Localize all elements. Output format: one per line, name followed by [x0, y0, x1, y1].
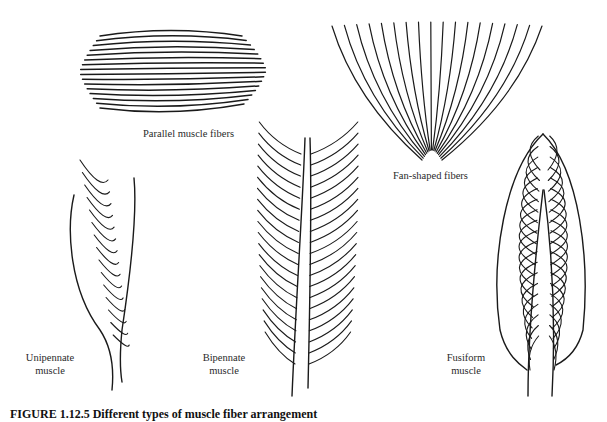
bipennate-fiber-right [311, 166, 359, 198]
bipennate-fiber-right [310, 199, 357, 231]
unipennate-fiber [92, 223, 116, 241]
bipennate-fiber-right [311, 177, 359, 209]
fan-fiber [442, 26, 542, 160]
fan-fiber [440, 25, 518, 157]
unipennate-label: Unipennate muscle [18, 351, 82, 377]
bipennate-fiber-right [309, 299, 353, 331]
parallel-fibers-drawing [81, 31, 266, 112]
parallel-fiber [85, 81, 262, 84]
bipennate-fiber-left [259, 244, 298, 276]
fusiform-label: Fusiform muscle [434, 351, 498, 377]
bipennate-tendon-left [292, 138, 305, 396]
parallel-fiber [87, 52, 258, 55]
bipennate-fiber-right [310, 188, 358, 220]
fusiform-muscle-drawing [497, 134, 585, 396]
unipennate-label-line2: muscle [18, 364, 82, 377]
bipennate-fiber-right [311, 144, 358, 176]
bipennate-fiber-left [258, 222, 298, 254]
bipennate-fiber-left [258, 188, 300, 220]
bipennate-fiber-left [258, 199, 299, 231]
fusiform-label-line1: Fusiform [434, 351, 498, 364]
bipennate-fiber-left [258, 155, 300, 187]
fan-fiber [419, 22, 431, 150]
bipennate-fiber-right [309, 332, 351, 364]
parallel-fiber [90, 47, 254, 51]
fusiform-fiber-left [521, 273, 537, 307]
parallel-fiber [83, 63, 264, 65]
bipennate-fiber-right [311, 155, 358, 187]
fan-fiber [406, 22, 429, 151]
bipennate-fiber-right [310, 233, 357, 265]
bipennate-muscle-drawing [258, 122, 359, 396]
bipennate-label: Bipennate muscle [192, 351, 256, 377]
bipennate-fiber-right [311, 133, 358, 165]
bipennate-label-line2: muscle [192, 364, 256, 377]
fan-shaped-fibers-drawing [332, 22, 542, 160]
bipennate-fiber-right [310, 255, 356, 287]
unipennate-tendon [121, 178, 135, 382]
bipennate-fiber-right [310, 222, 357, 254]
figure-caption: FIGURE 1.12.5 Different types of muscle … [10, 407, 317, 422]
bipennate-fiber-right [311, 122, 358, 154]
fan-fiber [441, 25, 530, 158]
bipennate-fiber-right [309, 321, 351, 353]
fusiform-fiber-right [551, 252, 567, 286]
fan-shaped-fibers-label: Fan-shaped fibers [393, 169, 468, 182]
unipennate-fiber [87, 198, 112, 218]
fusiform-fiber-left [519, 220, 537, 254]
parallel-fiber [85, 57, 261, 60]
bipennate-tendon-right [308, 138, 311, 388]
bipennate-fiber-right [310, 277, 355, 309]
bipennate-fiber-right [309, 310, 352, 342]
parallel-fibers-label: Parallel muscle fibers [143, 127, 234, 140]
unipennate-fiber [90, 210, 115, 229]
bipennate-fiber-left [258, 177, 300, 209]
fan-fiber [344, 25, 423, 158]
bipennate-fiber-right [310, 266, 356, 298]
fusiform-fiber-left [529, 336, 538, 370]
parallel-fiber [83, 77, 264, 80]
parallel-fiber [87, 86, 259, 90]
unipennate-fiber [111, 323, 128, 335]
fan-fiber [431, 22, 432, 150]
bipennate-fiber-left [258, 210, 299, 242]
unipennate-label-line1: Unipennate [18, 351, 82, 364]
bipennate-fiber-left [259, 122, 301, 154]
parallel-fiber [81, 68, 266, 70]
parallel-fiber [93, 41, 250, 45]
parallel-fiber [97, 36, 247, 41]
bipennate-fiber-left [258, 166, 300, 198]
unipennate-fiber [80, 160, 108, 183]
bipennate-fiber-right [310, 244, 357, 276]
unipennate-fiber [85, 185, 111, 206]
fusiform-label-line2: muscle [434, 364, 498, 377]
bipennate-fiber-left [259, 133, 301, 165]
bipennate-fiber-right [309, 288, 353, 320]
unipennate-fiber [82, 173, 109, 195]
fan-fiber [433, 22, 444, 150]
bipennate-fiber-right [310, 210, 357, 242]
parallel-fiber [81, 72, 266, 74]
fusiform-fiber-left [519, 231, 537, 265]
bipennate-label-line1: Bipennate [192, 351, 256, 364]
bipennate-fiber-left [265, 332, 295, 364]
bipennate-fiber-left [258, 144, 300, 176]
parallel-fiber [90, 90, 255, 95]
fan-fiber [439, 24, 505, 155]
bipennate-fiber-left [258, 233, 298, 265]
